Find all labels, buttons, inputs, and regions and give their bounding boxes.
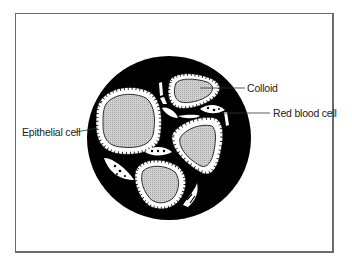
label-epithelial-cell: Epithelial cell [22, 126, 80, 138]
label-red-blood-cell: Red blood cell [273, 107, 337, 119]
follicle-diagram [0, 0, 352, 276]
follicle-left [96, 87, 161, 154]
label-colloid: Colloid [247, 82, 278, 94]
